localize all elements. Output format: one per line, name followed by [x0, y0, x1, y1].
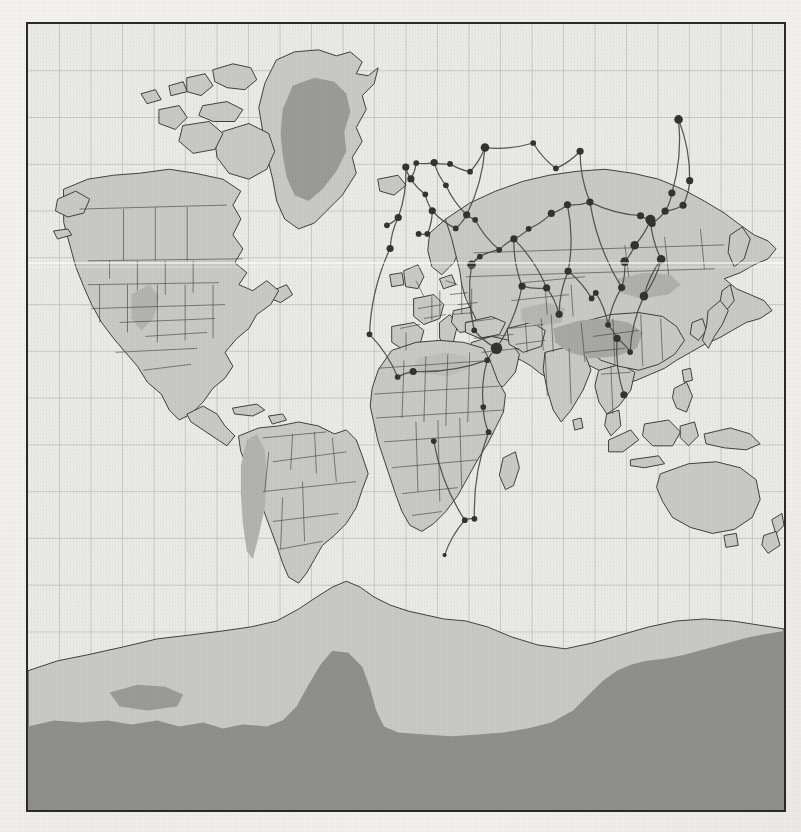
network-node[interactable] [620, 391, 627, 398]
network-node[interactable] [674, 115, 683, 124]
network-node[interactable] [586, 199, 593, 206]
network-node[interactable] [395, 374, 401, 380]
network-node[interactable] [443, 182, 449, 188]
network-node[interactable] [402, 163, 409, 170]
network-node[interactable] [413, 160, 419, 166]
network-node[interactable] [463, 211, 470, 218]
network-node[interactable] [416, 231, 422, 237]
network-node[interactable] [431, 438, 437, 444]
network-node[interactable] [442, 553, 446, 557]
network-node[interactable] [686, 177, 693, 184]
network-node[interactable] [605, 322, 611, 328]
network-node[interactable] [640, 292, 649, 301]
network-node[interactable] [367, 331, 373, 337]
network-node[interactable] [510, 235, 517, 242]
network-node[interactable] [614, 335, 621, 342]
network-node[interactable] [481, 143, 490, 152]
network-node[interactable] [679, 202, 686, 209]
network-node[interactable] [637, 212, 644, 219]
land-ireland [390, 273, 404, 287]
network-node[interactable] [472, 217, 478, 223]
network-node[interactable] [593, 290, 599, 296]
network-node[interactable] [431, 159, 438, 166]
network-node[interactable] [620, 257, 629, 266]
network-node[interactable] [565, 268, 572, 275]
network-node[interactable] [486, 429, 492, 435]
network-node[interactable] [630, 241, 639, 250]
network-node[interactable] [564, 201, 571, 208]
network-node[interactable] [530, 140, 536, 146]
network-node[interactable] [649, 220, 656, 227]
network-node[interactable] [548, 210, 555, 217]
network-node[interactable] [480, 404, 486, 410]
world-map[interactable] [28, 24, 784, 810]
network-node[interactable] [519, 283, 526, 290]
network-node[interactable] [447, 161, 453, 167]
network-node[interactable] [618, 284, 625, 291]
network-node[interactable] [627, 349, 633, 355]
network-node[interactable] [429, 207, 436, 214]
network-node[interactable] [662, 208, 669, 215]
network-node[interactable] [484, 357, 490, 363]
network-node[interactable] [453, 226, 459, 232]
land-sri-lanka [573, 418, 583, 430]
network-node[interactable] [425, 231, 431, 237]
network-node[interactable] [556, 311, 563, 318]
land-taiwan [683, 368, 693, 382]
network-node[interactable] [471, 327, 477, 333]
network-node[interactable] [467, 260, 476, 269]
network-node[interactable] [491, 343, 502, 354]
network-node[interactable] [407, 175, 414, 182]
network-node[interactable] [467, 169, 473, 175]
network-node[interactable] [553, 166, 559, 172]
network-node[interactable] [410, 368, 417, 375]
map-frame[interactable] [26, 22, 786, 812]
network-node[interactable] [477, 254, 483, 260]
network-node[interactable] [657, 255, 666, 264]
network-node[interactable] [384, 222, 390, 228]
network-node[interactable] [462, 517, 468, 523]
network-node[interactable] [543, 284, 550, 291]
network-node[interactable] [472, 516, 478, 522]
network-node[interactable] [668, 189, 675, 196]
network-node[interactable] [387, 245, 394, 252]
network-node[interactable] [422, 191, 428, 197]
network-node[interactable] [395, 214, 402, 221]
network-node[interactable] [589, 296, 595, 302]
network-node[interactable] [496, 247, 502, 253]
land-tasmania [724, 533, 738, 547]
network-node[interactable] [576, 148, 583, 155]
network-node[interactable] [526, 226, 532, 232]
